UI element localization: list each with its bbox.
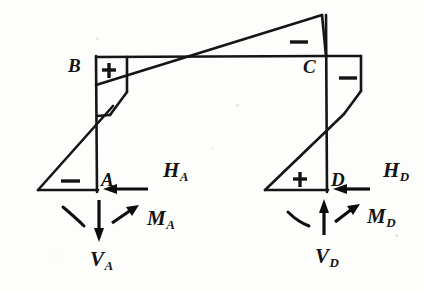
node-label-D: D	[331, 170, 345, 189]
reaction-group-D	[288, 184, 370, 235]
reaction-symbol-H_D: H	[383, 158, 399, 182]
reaction-label-M_D: MD	[367, 206, 396, 229]
reaction-label-H_A: HA	[163, 160, 189, 183]
left-plus-block-bottom-edge	[110, 92, 127, 115]
reaction-label-V_D: VD	[315, 246, 339, 269]
node-label-A: A	[101, 170, 114, 189]
diagram-canvas	[0, 0, 423, 291]
node-label-C: C	[303, 57, 316, 76]
reaction-label-V_A: VA	[90, 249, 113, 272]
node-label-B: B	[68, 56, 81, 75]
reaction-M_A-moment	[63, 205, 139, 226]
reaction-label-H_D: HD	[383, 160, 409, 183]
reaction-V_A-arrow	[94, 200, 104, 242]
scan-speck	[55, 255, 57, 257]
reaction-symbol-V_A: V	[90, 247, 104, 271]
scan-speck	[395, 234, 398, 237]
right-minus-block-bottom-edge	[344, 91, 361, 114]
beam-moment-diagonal	[96, 15, 322, 85]
reaction-symbol-M_A: M	[147, 206, 166, 230]
reaction-symbol-H_A: H	[163, 158, 179, 182]
right-column-axis-line	[326, 15, 327, 192]
beam-moment-diagram-group	[96, 15, 326, 85]
reaction-V_D-arrow	[319, 199, 329, 235]
sign-plus-lower-right	[293, 172, 307, 187]
reaction-subscript-M_D: D	[386, 216, 395, 229]
scan-speck	[236, 104, 239, 107]
reaction-subscript-H_A: A	[180, 170, 189, 183]
bending-moment-figure: B C A D HA VA MA HD VD MD	[0, 0, 423, 291]
scan-speck	[96, 37, 99, 40]
reaction-subscript-H_D: D	[400, 170, 409, 183]
sign-plus-upper-left	[102, 63, 116, 78]
reaction-group-A	[63, 184, 148, 242]
reaction-subscript-V_A: A	[105, 259, 114, 272]
beam-axis-line	[96, 56, 327, 57]
reaction-label-M_A: MA	[147, 208, 175, 231]
reaction-subscript-M_A: A	[166, 218, 175, 231]
reaction-symbol-M_D: M	[367, 204, 386, 228]
reaction-subscript-V_D: D	[330, 256, 339, 269]
scan-speck	[212, 148, 214, 150]
reaction-symbol-V_D: V	[315, 244, 329, 268]
